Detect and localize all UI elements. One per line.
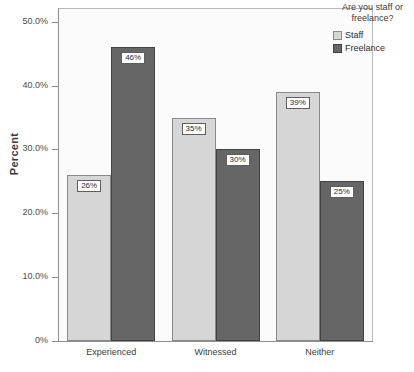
legend-label-staff: Staff (345, 30, 363, 40)
y-axis-tick-label: 50.0% (2, 16, 48, 26)
y-axis-tick (52, 86, 58, 87)
legend-item-staff[interactable]: Staff (333, 29, 414, 41)
x-axis-line (58, 341, 373, 342)
x-axis-category-label: Experienced (61, 347, 161, 357)
y-axis-tick-label: 40.0% (2, 80, 48, 90)
y-axis-line (58, 8, 59, 341)
legend-items: Staff Freelance (331, 29, 414, 54)
legend-swatch-freelance-icon (333, 44, 342, 53)
bar-value-label: 25% (330, 186, 354, 198)
y-axis-tick (52, 341, 58, 342)
bar-staff-neither[interactable] (276, 92, 320, 341)
bar-freelance-witnessed[interactable] (216, 149, 260, 341)
legend-label-freelance: Freelance (345, 43, 385, 53)
y-axis-title: Percent (8, 114, 20, 194)
legend-item-freelance[interactable]: Freelance (333, 42, 414, 54)
bar-freelance-experienced[interactable] (111, 47, 155, 341)
bar-staff-witnessed[interactable] (172, 118, 216, 341)
bar-chart: Percent 0%10.0%20.0%30.0%40.0%50.0%26%46… (0, 0, 414, 372)
y-axis-tick (52, 277, 58, 278)
legend-swatch-staff-icon (333, 31, 342, 40)
bar-value-label: 26% (77, 180, 101, 192)
y-axis-tick-label: 20.0% (2, 207, 48, 217)
legend: Are you staff or freelance? Staff Freela… (331, 2, 414, 55)
bar-staff-experienced[interactable] (67, 175, 111, 341)
bar-value-label: 30% (226, 154, 250, 166)
y-axis-tick-label: 0% (2, 335, 48, 345)
y-axis-tick (52, 22, 58, 23)
plot-top-border (58, 8, 373, 9)
bar-value-label: 46% (121, 52, 145, 64)
y-axis-tick (52, 213, 58, 214)
bar-value-label: 39% (286, 97, 310, 109)
plot-right-border (372, 8, 373, 341)
bar-value-label: 35% (182, 123, 206, 135)
legend-title: Are you staff or freelance? (331, 2, 414, 24)
x-axis-category-label: Neither (270, 347, 370, 357)
x-axis-category-label: Witnessed (166, 347, 266, 357)
bar-freelance-neither[interactable] (320, 181, 364, 341)
y-axis-tick-label: 10.0% (2, 271, 48, 281)
y-axis-tick-label: 30.0% (2, 143, 48, 153)
y-axis-tick (52, 149, 58, 150)
